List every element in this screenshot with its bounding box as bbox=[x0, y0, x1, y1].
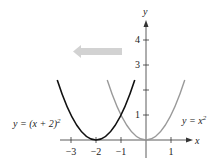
x-tick-label: 1 bbox=[169, 146, 174, 157]
y-tick-label: 1 bbox=[135, 109, 140, 120]
x-axis-arrow-icon bbox=[186, 138, 193, 143]
x-tick-label: −3 bbox=[66, 146, 77, 157]
curve-base-label: y = x2 bbox=[181, 114, 207, 126]
y-tick-label: 4 bbox=[135, 34, 140, 45]
shift-left-arrow-icon bbox=[73, 45, 122, 58]
y-tick-label: 3 bbox=[135, 59, 140, 70]
plot-canvas: −3 −2 −1 1 1 3 4 x y y = (x + 2)2 y = x2 bbox=[0, 0, 214, 162]
curve-shifted-label: y = (x + 2)2 bbox=[12, 117, 61, 130]
y-axis-label: y bbox=[142, 6, 148, 17]
curve-shifted-parabola bbox=[57, 80, 135, 140]
x-tick-label: −1 bbox=[116, 146, 127, 157]
y-axis-arrow-icon bbox=[144, 20, 149, 27]
graph-figure: −3 −2 −1 1 1 3 4 x y y = (x + 2)2 y = x2 bbox=[0, 0, 214, 162]
x-axis-label: x bbox=[194, 135, 200, 146]
x-tick-label: −2 bbox=[91, 146, 102, 157]
